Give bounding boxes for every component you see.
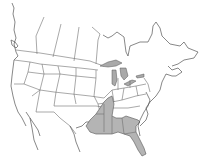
pacific-coastline (11, 3, 26, 126)
lake-huron (120, 68, 128, 80)
gulf-coastline (26, 112, 90, 152)
range-area (86, 96, 146, 156)
lake-superior (100, 60, 122, 67)
vancouver-island (11, 40, 18, 48)
hudson-bay-coast (103, 22, 198, 66)
canada-us-border (16, 50, 104, 66)
lake-michigan (112, 70, 117, 86)
lake-ontario (136, 74, 144, 78)
province-borders (36, 17, 100, 64)
range-map (0, 0, 206, 166)
maritimes-coast (140, 66, 182, 126)
